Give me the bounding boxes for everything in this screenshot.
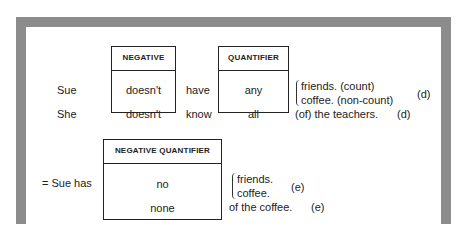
label-e-1: (e)	[291, 181, 304, 193]
object-teachers: (of) the teachers.	[295, 108, 378, 120]
negative-quantifier-header: NEGATIVE QUANTIFIER	[104, 140, 221, 164]
quantifier-box: QUANTIFIER any all	[218, 46, 289, 113]
negative-box: NEGATIVE doesn't doesn't	[111, 46, 176, 113]
label-d-1: (d)	[417, 88, 430, 100]
object-coffee: coffee.	[237, 187, 270, 199]
subject-sue: Sue	[57, 84, 77, 96]
quantifier-cell-2: all	[219, 108, 288, 120]
subject-she: She	[57, 108, 77, 120]
negative-quantifier-cell-2: none	[104, 202, 221, 214]
object-coffee-noncount: coffee. (non-count)	[301, 94, 393, 106]
negative-quantifier-cell-1: no	[104, 178, 221, 190]
verb-know: know	[186, 108, 212, 120]
negative-quantifier-box: NEGATIVE QUANTIFIER no none	[103, 139, 222, 220]
object-of-the-coffee: of the coffee.	[229, 201, 292, 213]
label-d-2: (d)	[397, 108, 410, 120]
lead-sue-has: = Sue has	[42, 177, 92, 189]
verb-have: have	[186, 84, 210, 96]
quantifier-cell-1: any	[219, 84, 288, 96]
object-friends: friends.	[237, 173, 273, 185]
object-friends-count: friends. (count)	[301, 80, 374, 92]
quantifier-header: QUANTIFIER	[219, 47, 288, 71]
negative-cell-2: doesn't	[112, 108, 175, 120]
label-e-2: (e)	[311, 201, 324, 213]
negative-cell-1: doesn't	[112, 84, 175, 96]
negative-header: NEGATIVE	[112, 47, 175, 71]
